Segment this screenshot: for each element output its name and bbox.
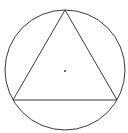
diagram-canvas xyxy=(0,0,128,133)
inscribed-triangle xyxy=(13,10,117,100)
center-point xyxy=(64,70,66,72)
geometry-figure xyxy=(0,0,128,133)
